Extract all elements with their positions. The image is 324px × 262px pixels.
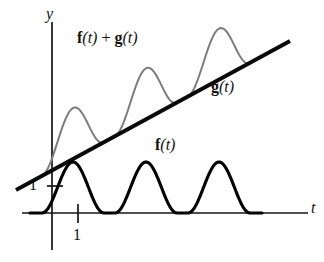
y-tick-label-1: 1 (29, 177, 37, 193)
label-sum-plus: + (97, 29, 114, 46)
label-g-arg: (t) (219, 78, 234, 95)
figure-canvas: y t 1 1 f(t) + g(t) g(t) f(t) (0, 0, 324, 262)
label-sum-f-arg: (t) (82, 29, 97, 46)
label-g-bold: g (211, 78, 219, 95)
y-axis-label: y (46, 6, 53, 22)
sum-curve-f-plus-g (37, 28, 262, 179)
t-tick-label-1: 1 (73, 227, 81, 243)
t-axis-label: t (311, 200, 315, 216)
label-f-arg: (t) (160, 136, 175, 153)
label-f-plus-g: f(t) + g(t) (77, 30, 138, 46)
label-sum-g-arg: (t) (122, 29, 137, 46)
label-f: f(t) (155, 137, 175, 153)
function-plot-svg (0, 0, 324, 262)
f-curve (30, 162, 262, 213)
label-g: g(t) (211, 79, 234, 95)
